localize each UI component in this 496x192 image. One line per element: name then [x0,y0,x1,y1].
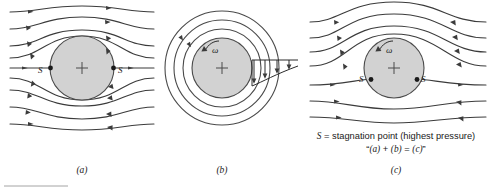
superposition-term-a: (a) [369,144,380,155]
streamline [310,2,486,22]
superposition-equals: = [402,144,413,154]
panel-caption-a: (a) [76,165,87,176]
superposition-term-b: (b) [391,144,402,155]
stagnation-point-dot [48,66,53,71]
panel-c-streamlines-lower [310,101,486,123]
cylinder-flow-figure: S S [0,0,496,192]
panel-b: ω (b) [165,11,298,176]
stagnation-label-right: S [118,65,123,75]
panel-c: ω S S [310,2,486,176]
panel-a: S S [10,6,154,176]
stagnation-label-left: S [359,74,364,84]
superposition-note-line: “(a) + (b) = (c)” [366,144,425,155]
panel-caption-b: (b) [216,165,227,176]
figure-canvas: S S [0,0,496,192]
panel-caption-c: (c) [391,165,402,176]
superposition-plus: + [380,144,391,154]
stagnation-point-dot [415,77,420,82]
streamline-stagnation [417,79,486,85]
streamline [10,17,154,29]
stagnation-label-left: S [38,65,43,75]
streamline [10,107,154,119]
stagnation-label-right: S [421,74,426,84]
omega-label: ω [386,45,392,55]
streamline [10,124,154,130]
omega-label: ω [212,45,218,55]
quote-close: ” [423,144,426,154]
stagnation-point-dot [369,77,374,82]
superposition-term-c: (c) [412,144,422,155]
stagnation-point-dot [111,66,116,71]
stagnation-note-text: = stagnation point (highest pressure) [321,131,475,141]
stagnation-note-line: S = stagnation point (highest pressure) [317,131,475,141]
